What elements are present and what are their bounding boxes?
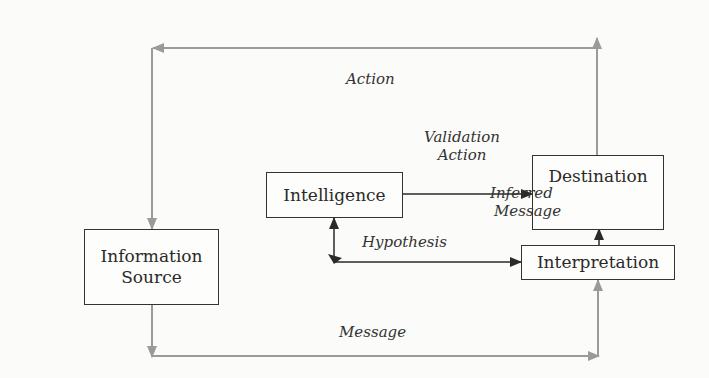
interpretation-node: Interpretation xyxy=(521,245,675,280)
information-source-node: Information Source xyxy=(84,229,219,305)
interpretation-label: Interpretation xyxy=(537,252,659,273)
intelligence-node: Intelligence xyxy=(266,172,403,218)
validation-action-label: Validation Action xyxy=(412,128,512,164)
validation-action-label-line2: Action xyxy=(412,146,512,164)
message-label: Message xyxy=(339,323,406,341)
hypothesis-label: Hypothesis xyxy=(362,233,447,251)
information-source-label-line1: Information xyxy=(100,246,202,267)
action-label: Action xyxy=(346,70,395,88)
inferred-message-label-line1: Inferred xyxy=(490,184,580,202)
message-arrow xyxy=(152,280,599,357)
inferred-message-label-line2: Message xyxy=(490,202,580,220)
intelligence-label: Intelligence xyxy=(283,185,385,206)
validation-action-label-line1: Validation xyxy=(412,128,512,146)
information-source-label-line2: Source xyxy=(121,267,182,288)
inferred-message-label: Inferred Message xyxy=(490,184,580,220)
